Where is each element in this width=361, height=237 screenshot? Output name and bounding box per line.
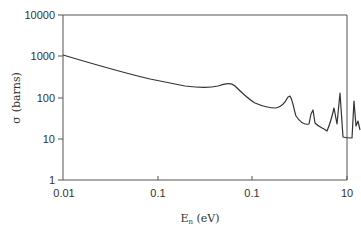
y-tick-10000: 10000 (24, 9, 55, 21)
x-tick-labels: 0.01 0.1 0.1 10 (53, 187, 353, 199)
y-tick-1000: 1000 (31, 50, 55, 62)
y-axis-title: σ(barns) (10, 72, 23, 124)
y-tick-labels: 10000 1000 100 10 1 (24, 9, 55, 186)
y-tick-100: 100 (37, 92, 55, 104)
x-tick-0.01: 0.01 (53, 187, 74, 199)
x-axis-title: En (eV) (180, 212, 219, 226)
x-tick-10: 10 (341, 187, 353, 199)
x-tick-1: 0.1 (244, 187, 259, 199)
x-tick-0.1: 0.1 (150, 187, 165, 199)
x-ticks (158, 176, 347, 180)
y-ticks (58, 15, 63, 180)
cross-section-chart: 10000 1000 100 10 1 0.01 0.1 0.1 10 En (… (0, 0, 361, 237)
plot-frame (63, 15, 347, 180)
y-tick-10: 10 (43, 133, 55, 145)
y-tick-1: 1 (49, 174, 55, 186)
cross-section-curve (63, 55, 360, 138)
